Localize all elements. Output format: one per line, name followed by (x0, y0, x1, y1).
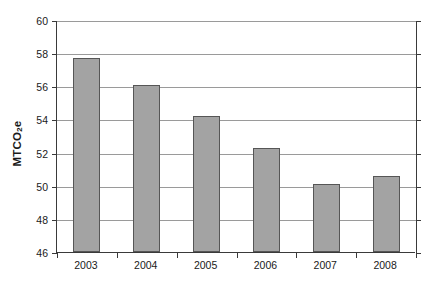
bar (73, 58, 100, 252)
bar (193, 116, 220, 252)
y-axis-tick-label: 46 (26, 247, 48, 259)
bar (253, 148, 280, 252)
bar (133, 85, 160, 252)
y-axis-title-subscript: 2 (15, 127, 24, 132)
x-axis-tick-label: 2008 (373, 259, 396, 271)
x-axis-tick-mark (177, 253, 178, 258)
y-axis-tick-label: 50 (26, 181, 48, 193)
y-axis-tick-label: 52 (26, 148, 48, 160)
x-axis-tick-mark (416, 253, 417, 258)
x-axis-tick-label: 2004 (134, 259, 157, 271)
x-axis-tick-label: 2003 (74, 259, 97, 271)
x-axis-tick-mark (57, 253, 58, 258)
y-axis-title-prefix: MTCO (11, 132, 23, 167)
x-axis-tick-label: 2007 (314, 259, 337, 271)
gridline (57, 120, 416, 121)
bar (373, 176, 400, 252)
right-axis-line (416, 21, 417, 253)
x-axis-tick-mark (296, 253, 297, 258)
y-axis-tick-labels: 4648505254565860 (26, 0, 48, 287)
gridline (57, 87, 416, 88)
y-axis-tick-mark (52, 21, 57, 22)
gridline (57, 187, 416, 188)
y-axis-tick-label: 48 (26, 214, 48, 226)
y-axis-tick-mark (52, 87, 57, 88)
y-axis-tick-label: 56 (26, 81, 48, 93)
x-axis-tick-mark (356, 253, 357, 258)
gridline (57, 154, 416, 155)
bar (313, 184, 340, 252)
y-axis-tick-mark (52, 187, 57, 188)
y-axis-tick-mark (52, 220, 57, 221)
gridline (57, 220, 416, 221)
y-axis-tick-label: 60 (26, 15, 48, 27)
y-axis-tick-mark (52, 120, 57, 121)
x-axis-tick-labels: 200320042005200620072008 (56, 259, 415, 275)
y-axis-tick-label: 58 (26, 48, 48, 60)
gridline (57, 54, 416, 55)
x-axis-tick-label: 2006 (254, 259, 277, 271)
gridline (57, 21, 416, 22)
bar-chart: MTCO2e 4648505254565860 2003200420052006… (0, 0, 427, 287)
plot-area (56, 21, 415, 253)
y-axis-tick-mark (52, 54, 57, 55)
x-axis-tick-mark (237, 253, 238, 258)
x-axis-tick-mark (117, 253, 118, 258)
y-axis-tick-label: 54 (26, 114, 48, 126)
x-axis-tick-label: 2005 (194, 259, 217, 271)
y-axis-tick-mark (52, 154, 57, 155)
